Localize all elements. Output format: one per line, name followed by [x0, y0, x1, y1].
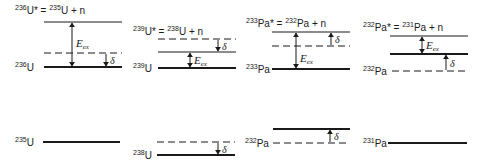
- nuclide-label: 239U: [133, 62, 152, 74]
- nuclide-label: 233Pa: [246, 63, 270, 75]
- target-delta-label: δ: [222, 144, 227, 155]
- panels-group: 236U* = 235U + n236UEexδ235U239U* = 238U…: [15, 4, 468, 161]
- reaction-equation: 236U* = 235U + n: [15, 4, 85, 16]
- reaction-equation: 232Pa* = 231Pa + n: [363, 21, 443, 33]
- pairing-delta-label: δ: [335, 34, 340, 45]
- pairing-delta-label: δ: [222, 41, 227, 52]
- pairing-delta-label: δ: [450, 58, 455, 69]
- excitation-energy-label: Eex: [425, 39, 440, 53]
- nuclide-label: 232Pa: [363, 65, 387, 77]
- target-delta-label: δ: [334, 131, 339, 142]
- target-nuclide-label: 232Pa: [245, 137, 269, 149]
- pairing-delta-label: δ: [110, 55, 115, 66]
- target-nuclide-label: 235U: [15, 136, 34, 148]
- reaction-equation: 239U* = 238U + n: [133, 25, 203, 37]
- excitation-energy-label: Eex: [75, 37, 90, 51]
- panel-pa232: 232Pa* = 231Pa + n232PaEexδ231Pa: [363, 21, 468, 149]
- panel-u239: 239U* = 238U + n239UEexδδ238U: [133, 25, 236, 161]
- target-nuclide-label: 231Pa: [363, 137, 387, 149]
- panel-u236: 236U* = 235U + n236UEexδ235U: [15, 4, 122, 148]
- nuclear-energy-level-diagram: 236U* = 235U + n236UEexδ235U239U* = 238U…: [0, 0, 480, 164]
- excitation-energy-label: Eex: [193, 54, 208, 68]
- target-nuclide-label: 238U: [133, 149, 152, 161]
- excitation-energy-label: Eex: [299, 52, 314, 66]
- nuclide-label: 236U: [15, 61, 34, 73]
- reaction-equation: 233Pa* = 232Pa + n: [246, 17, 326, 29]
- panel-pa233: 233Pa* = 232Pa + n233PaEexδδ232Pa: [245, 17, 350, 149]
